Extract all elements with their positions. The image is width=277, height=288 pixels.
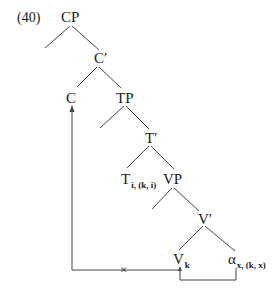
node-v-bar: V′ [198, 212, 212, 227]
arrowhead-c [70, 105, 75, 112]
edge-tp-tbar [126, 106, 149, 129]
example-number: (40) [17, 10, 40, 25]
node-v-head-label: V [173, 251, 184, 267]
node-t-bar: T′ [145, 131, 157, 146]
edge-tp-left [100, 106, 124, 128]
node-t-head-label: T [121, 171, 130, 187]
edge-vbar-v [179, 226, 203, 250]
node-tp: TP [116, 91, 134, 106]
node-t-head: Ti, (k, i) [121, 172, 156, 189]
edge-cp-left [45, 26, 70, 48]
node-alpha: αx, (k, x) [228, 252, 266, 269]
node-vp: VP [163, 172, 182, 187]
edge-cbar-tp [99, 67, 121, 88]
node-v-head-subscript: k [185, 260, 190, 270]
edge-vp-left [152, 188, 172, 209]
node-cp: CP [61, 10, 79, 25]
node-v-head: Vk [173, 252, 190, 269]
node-c-bar: C′ [94, 51, 107, 66]
tree-edges [0, 0, 277, 288]
syntax-tree-diagram: (40) CP C′ C TP T′ Ti, (k, i) VP V′ Vk α… [0, 0, 277, 288]
movement-v-to-c [72, 109, 180, 271]
node-t-head-subscript: i, (k, i) [131, 180, 156, 190]
edge-tbar-t [127, 146, 149, 168]
blocked-movement-marker: × [120, 262, 127, 277]
node-alpha-subscript: x, (k, x) [237, 260, 266, 270]
node-alpha-label: α [228, 251, 236, 267]
node-c: C [66, 91, 76, 106]
edge-tbar-vp [151, 146, 174, 169]
edge-vbar-alpha [205, 226, 235, 251]
edge-cp-cbar [72, 26, 99, 50]
edge-cbar-c [77, 67, 97, 87]
edge-vp-vbar [174, 188, 199, 211]
